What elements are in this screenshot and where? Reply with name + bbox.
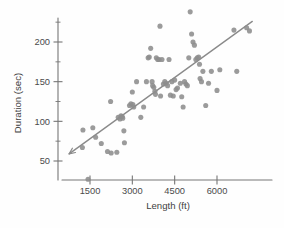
x-axis-tick-label: 3000 xyxy=(122,186,143,196)
x-axis-tick-label: 6000 xyxy=(207,186,228,196)
chart-canvas: 50100150200Duration (sec)150030004500600… xyxy=(0,0,284,228)
x-axis-tick-label: 1500 xyxy=(80,186,101,196)
data-point xyxy=(186,55,191,60)
data-point xyxy=(138,115,143,120)
data-point xyxy=(147,55,152,60)
data-point xyxy=(153,92,158,97)
data-point xyxy=(121,128,126,133)
data-point xyxy=(131,105,136,110)
data-point xyxy=(157,24,162,29)
data-point xyxy=(217,67,222,72)
data-point xyxy=(80,128,85,133)
data-point xyxy=(192,43,197,48)
data-point xyxy=(120,116,125,121)
y-axis-tick-label: 50 xyxy=(40,156,50,166)
y-axis-title: Duration (sec) xyxy=(12,73,23,133)
trend-line xyxy=(69,21,252,153)
data-point xyxy=(209,69,214,74)
data-point xyxy=(179,94,184,99)
data-point xyxy=(247,28,252,33)
data-point-group xyxy=(80,9,252,182)
data-point xyxy=(234,69,239,74)
data-point xyxy=(165,83,170,88)
data-point xyxy=(175,85,180,90)
data-point xyxy=(90,125,95,130)
data-point xyxy=(181,105,186,110)
data-point xyxy=(122,140,127,145)
data-point xyxy=(197,62,202,67)
data-point xyxy=(99,141,104,146)
x-axis-tick-label: 4500 xyxy=(164,186,185,196)
scatter-plot-figure: 50100150200Duration (sec)150030004500600… xyxy=(0,0,284,228)
data-point xyxy=(159,57,164,62)
data-point xyxy=(231,28,236,33)
data-point xyxy=(185,83,190,88)
data-point xyxy=(93,135,98,140)
data-point xyxy=(80,145,85,150)
data-point xyxy=(188,9,193,14)
data-point xyxy=(148,46,153,51)
data-point xyxy=(144,79,149,84)
y-axis-tick-label: 200 xyxy=(34,37,50,47)
data-point xyxy=(108,99,113,104)
y-axis-tick-label: 150 xyxy=(34,77,50,87)
data-point xyxy=(214,88,219,93)
data-point xyxy=(158,93,163,98)
data-point xyxy=(166,57,171,62)
data-point xyxy=(85,177,90,182)
data-point xyxy=(189,32,194,37)
data-point xyxy=(114,150,119,155)
data-point xyxy=(200,69,205,74)
data-point xyxy=(203,103,208,108)
data-point xyxy=(141,105,146,110)
data-point xyxy=(130,89,135,94)
data-point xyxy=(206,81,211,86)
y-axis-tick-label: 100 xyxy=(34,117,50,127)
data-point xyxy=(199,79,204,84)
data-point xyxy=(134,79,139,84)
data-point xyxy=(109,151,114,156)
data-point xyxy=(172,78,177,83)
data-point xyxy=(171,93,176,98)
x-axis-title: Length (ft) xyxy=(146,200,190,211)
data-point xyxy=(196,55,201,60)
